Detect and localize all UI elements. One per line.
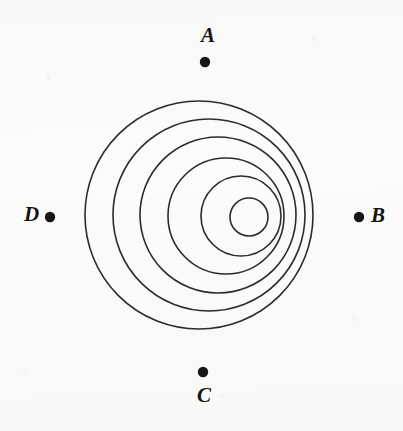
wavefront-3 (140, 137, 296, 293)
figure-canvas: A B C D (0, 0, 403, 431)
point-label-a: A (201, 25, 215, 46)
point-label-d: D (24, 204, 39, 225)
point-dot-a (200, 57, 210, 67)
point-dot-d (45, 212, 55, 222)
point-dot-c (198, 367, 208, 377)
outermost-wavefront (85, 101, 313, 329)
wavefront-4 (168, 158, 284, 274)
point-label-b: B (371, 205, 385, 226)
point-label-c: C (197, 385, 211, 406)
wavefront-5 (201, 176, 281, 256)
innermost-wavefront (230, 198, 268, 236)
wavefront-diagram (0, 0, 403, 431)
wavefront-group (85, 101, 313, 329)
point-dot-b (354, 212, 364, 222)
wavefront-2 (113, 119, 305, 311)
